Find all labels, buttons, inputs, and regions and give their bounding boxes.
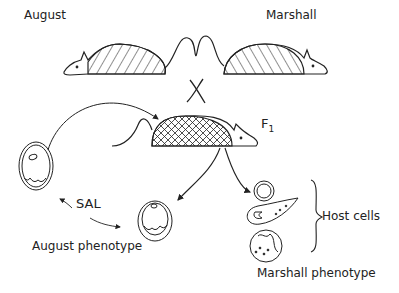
arrow-to-marshall-phenotype (225, 148, 250, 192)
august-phenotype-label: August phenotype (32, 239, 142, 253)
host-cells-icon (247, 181, 298, 262)
august-label: August (24, 8, 66, 22)
arrow-to-f1 (48, 103, 158, 150)
marshall-mouse-icon (196, 36, 327, 74)
marshall-phenotype-label: Marshall phenotype (257, 266, 376, 280)
august-phenotype-cell-icon (138, 201, 172, 241)
f1-subscript: 1 (268, 124, 274, 134)
cross-symbol-icon (187, 79, 205, 103)
august-cell-icon (19, 142, 53, 190)
host-cells-brace (311, 180, 322, 252)
marshall-label: Marshall (266, 8, 317, 22)
f1-mouse-icon (112, 116, 258, 146)
sal-arrow-right (90, 218, 120, 227)
sal-label: SAL (76, 196, 101, 211)
host-cells-label: Host cells (322, 209, 380, 223)
sal-arrow-up (60, 199, 72, 208)
f1-label: F1 (261, 116, 274, 134)
august-mouse-icon (64, 38, 196, 75)
arrow-to-august-phenotype (178, 148, 220, 200)
